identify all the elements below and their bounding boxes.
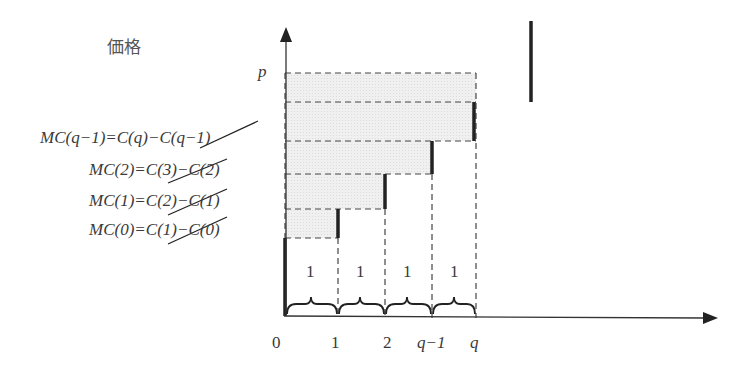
x-tick-0: 0: [272, 333, 281, 353]
y-axis-arrow-icon: [280, 27, 292, 42]
unit-label-1: 1: [306, 262, 315, 282]
x-tick-q-minus-1: q−1: [417, 333, 445, 353]
mc-label-2: MC(2)=C(3)−C(2): [89, 160, 220, 180]
unit-label-3: 1: [403, 262, 412, 282]
mc-label-q-minus-1: MC(q−1)=C(q)−C(q−1): [40, 128, 211, 148]
mc-label-1: MC(1)=C(2)−C(1): [89, 191, 220, 211]
x-tick-2: 2: [383, 333, 392, 353]
x-tick-q: q: [470, 333, 479, 353]
mc-label-0: MC(0)=C(1)−C(0): [89, 220, 220, 240]
shaded-areas: [285, 73, 476, 238]
unit-braces: [287, 297, 475, 314]
price-label: p: [258, 62, 267, 82]
unit-label-4: 1: [450, 262, 459, 282]
x-tick-1: 1: [331, 333, 340, 353]
x-axis-arrow-icon: [703, 312, 718, 324]
x-axis: [284, 316, 705, 318]
y-axis-label: 価格: [107, 33, 141, 58]
unit-label-2: 1: [356, 262, 365, 282]
